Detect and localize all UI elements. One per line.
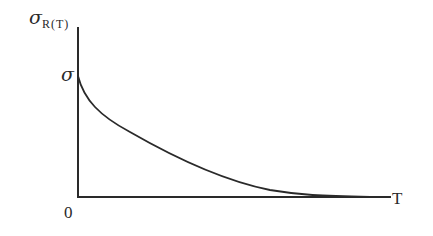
y-intercept-label: σ xyxy=(61,65,74,84)
x-axis-label: T xyxy=(392,190,402,207)
y-axis-label-symbol: σ xyxy=(29,6,42,28)
decay-curve xyxy=(78,76,370,197)
diagram-canvas xyxy=(0,0,433,236)
y-axis-label-subscript: R(T) xyxy=(42,17,69,31)
y-axis-label: σR(T) xyxy=(29,8,69,27)
origin-label: 0 xyxy=(64,204,73,221)
